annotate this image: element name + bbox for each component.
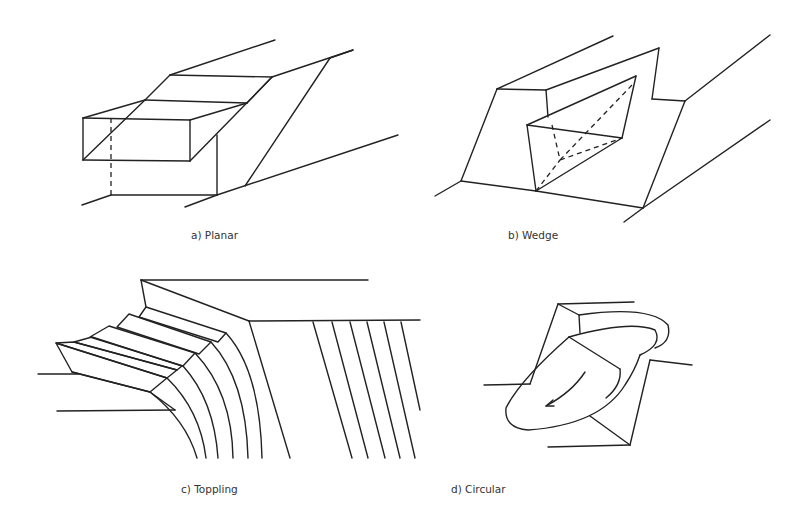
- slope-failure-diagram: [0, 0, 805, 518]
- caption-circular: d) Circular: [451, 483, 506, 495]
- panel-toppling-drawing: [38, 280, 420, 458]
- caption-planar: a) Planar: [191, 229, 238, 241]
- caption-toppling: c) Toppling: [181, 483, 238, 495]
- panel-planar-drawing: [82, 40, 398, 207]
- panel-wedge-drawing: [435, 35, 770, 222]
- panel-circular-drawing: [484, 302, 692, 447]
- caption-wedge: b) Wedge: [508, 229, 558, 241]
